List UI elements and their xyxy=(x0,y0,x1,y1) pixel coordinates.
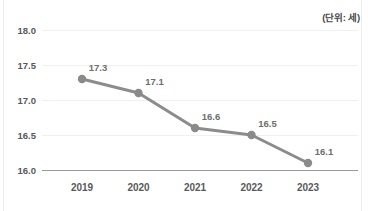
data-point-label: 17.1 xyxy=(145,76,164,87)
series-marker xyxy=(78,75,86,83)
series-marker xyxy=(247,131,255,139)
series-line-group xyxy=(0,0,368,211)
plot-area: 18.017.517.016.516.0 2019202020212022202… xyxy=(0,0,368,211)
series-marker xyxy=(304,159,312,167)
data-point-label: 16.1 xyxy=(315,146,334,157)
data-point-label: 17.3 xyxy=(89,62,108,73)
series-marker xyxy=(191,124,199,132)
series-marker xyxy=(134,89,142,97)
data-point-label: 16.6 xyxy=(202,111,221,122)
data-point-label: 16.5 xyxy=(258,118,277,129)
chart-figure: (단위: 세) 18.017.517.016.516.0 20192020202… xyxy=(0,0,368,211)
